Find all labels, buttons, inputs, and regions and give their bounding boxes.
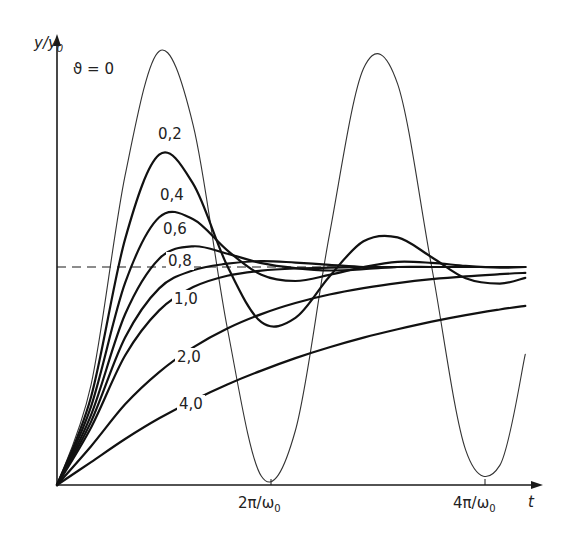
step-response-chart bbox=[0, 0, 569, 537]
curve-label: 0,6 bbox=[161, 220, 189, 238]
curve-label: 4,0 bbox=[177, 395, 205, 413]
curve-damping-0-6 bbox=[57, 246, 525, 485]
legend-title-theta: ϑ = 0 bbox=[71, 60, 116, 78]
x-axis-arrow-icon bbox=[531, 481, 543, 489]
x-tick-label-2pi: 2π/ω0 bbox=[238, 494, 281, 514]
curve-label: 0,8 bbox=[166, 252, 194, 270]
curve-label: 1,0 bbox=[172, 290, 200, 308]
curve-damping-0-2 bbox=[57, 152, 525, 485]
curves bbox=[57, 50, 525, 485]
curve-damping-2-0 bbox=[57, 273, 525, 485]
curve-label: 2,0 bbox=[175, 348, 203, 366]
curve-damping-0-8 bbox=[57, 261, 525, 485]
curve-label: 0,2 bbox=[156, 125, 184, 143]
y-axis-label: y/y0 bbox=[34, 34, 63, 54]
x-tick-label-4pi: 4π/ω0 bbox=[453, 494, 496, 514]
curve-label: 0,4 bbox=[158, 186, 186, 204]
x-axis-label: t bbox=[528, 493, 534, 511]
curve-damping-1-0 bbox=[57, 267, 525, 485]
